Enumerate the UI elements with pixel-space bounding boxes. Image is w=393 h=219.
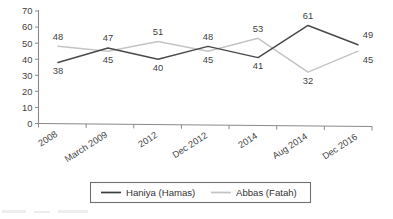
x-axis-tick-labels: 2008March 20092012Dec 20122014Aug 2014De… [36, 129, 359, 164]
y-axis-tick-label: 30 [22, 70, 32, 81]
legend-label-abbas-fatah: Abbas (Fatah) [236, 187, 297, 198]
data-point-label: 48 [203, 31, 213, 42]
x-axis-line [39, 124, 373, 127]
data-point-label: 49 [363, 29, 373, 40]
y-axis-tick-label: 70 [22, 5, 32, 16]
data-point-label: 45 [203, 54, 213, 65]
y-axis-tick-label: 50 [22, 38, 32, 49]
y-axis-tick-label: 60 [22, 21, 32, 32]
data-point-label: 51 [153, 26, 163, 37]
data-point-label: 38 [53, 65, 63, 76]
x-axis-tick-label: 2012 [136, 130, 159, 150]
data-point-label: 40 [153, 62, 163, 73]
x-axis-tick-label: March 2009 [63, 129, 109, 164]
y-axis-tick-label: 40 [22, 54, 32, 65]
data-point-label: 53 [253, 23, 263, 34]
x-axis: 2008March 20092012Dec 20122014Aug 2014De… [36, 124, 372, 165]
line-chart-figure: 010203040506070 2008March 20092012Dec 20… [0, 0, 393, 219]
y-axis-tick-label: 10 [22, 102, 32, 113]
data-point-label: 48 [53, 31, 63, 42]
x-axis-tick-label: Aug 2014 [271, 131, 309, 161]
data-point-label: 61 [303, 10, 313, 21]
y-axis-tick-labels: 010203040506070 [22, 5, 32, 128]
x-axis-tick-label: Dec 2012 [171, 130, 209, 160]
x-axis-tick-label: 2008 [36, 129, 59, 149]
data-point-label: 47 [103, 32, 113, 43]
data-point-label: 45 [363, 54, 373, 65]
chart-legend: Haniya (Hamas) Abbas (Fatah) [91, 183, 311, 203]
scan-artifacts [2, 210, 88, 213]
x-axis-tick-label: 2014 [236, 131, 259, 151]
y-axis-tick-label: 0 [27, 118, 32, 129]
data-point-label: 32 [303, 75, 313, 86]
data-point-label: 45 [103, 54, 113, 65]
y-axis: 010203040506070 [22, 5, 38, 128]
data-point-label: 41 [253, 60, 263, 71]
x-axis-tick-label: Dec 2016 [321, 132, 359, 162]
legend-label-haniya-hamas: Haniya (Hamas) [126, 187, 195, 198]
y-axis-tick-label: 20 [22, 86, 32, 97]
chart-canvas: 010203040506070 2008March 20092012Dec 20… [0, 0, 393, 219]
